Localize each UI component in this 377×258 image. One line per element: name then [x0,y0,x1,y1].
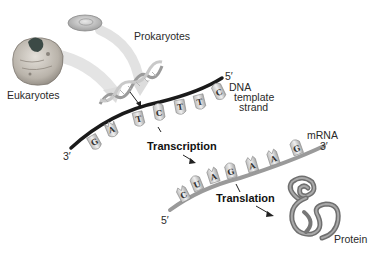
eukaryote-cell-icon [13,37,63,85]
dna-base-item: T [132,111,145,127]
mrna-base-item: A [266,149,280,166]
prokaryotes-label: Prokaryotes [134,31,190,42]
dna-base-item: C [153,103,166,121]
mrna-3prime-label: 3′ [320,141,328,152]
mrna-5prime-label: 5′ [161,215,169,226]
protein-icon [290,178,338,238]
mrna-base-item: U [189,174,204,192]
protein-label: Protein [334,234,367,245]
transcription-label: Transcription [147,141,217,152]
dna-base-item: T [193,94,206,110]
eukaryotes-label: Eukaryotes [7,90,60,101]
strand-label: strand [239,102,268,113]
mrna-base-item: G [289,138,304,156]
dna-base-item: T [174,99,186,115]
translation-label: Translation [216,193,275,204]
central-dogma-diagram: G A T C T T C [0,0,377,258]
dna-3prime-label: 3′ [63,151,71,162]
mrna-base-item: A [206,167,220,184]
dna-base-item: G [87,134,103,152]
mrna-base-item: G [224,162,237,179]
prokaryote-cell-icon [68,15,102,31]
mrna-base-item: A [245,156,259,173]
